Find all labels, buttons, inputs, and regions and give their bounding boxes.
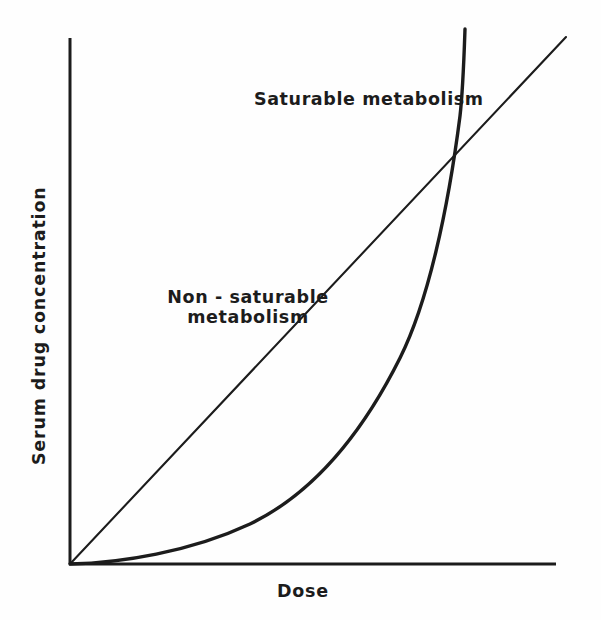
x-axis-label: Dose [243,582,363,602]
annotation-non-saturable-line1: Non - saturable [167,287,328,307]
y-axis-label: Serum drug concentration [30,186,50,466]
annotation-non-saturable-line2: metabolism [162,308,334,328]
chart-figure: Saturable metabolism Non - saturablemeta… [0,0,601,620]
annotation-saturable-metabolism: Saturable metabolism [254,90,484,110]
annotation-non-saturable-metabolism: Non - saturablemetabolism [162,288,334,327]
